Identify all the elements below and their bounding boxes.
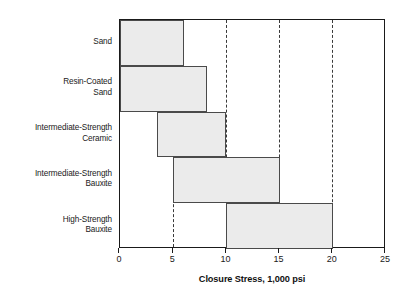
bar-high-strength-bauxite xyxy=(226,203,332,249)
x-tick-mark-0 xyxy=(118,248,119,253)
x-tick-label-0: 0 xyxy=(99,254,139,264)
x-tick-label-15: 15 xyxy=(259,254,299,264)
x-tick-label-20: 20 xyxy=(312,254,352,264)
bar-intermediate-strength-bauxite xyxy=(173,157,279,203)
category-label-intermediate-strength-ceramic: Intermediate-Strength Ceramic xyxy=(0,123,112,144)
category-label-resin-coated-sand: Resin-Coated Sand xyxy=(0,77,112,98)
category-label-intermediate-strength-bauxite: Intermediate-Strength Bauxite xyxy=(0,169,112,190)
category-label-sand: Sand xyxy=(0,37,112,48)
bar-intermediate-strength-ceramic xyxy=(157,112,226,158)
x-tick-label-10: 10 xyxy=(205,254,245,264)
category-label-high-strength-bauxite: High-Strength Bauxite xyxy=(0,215,112,236)
x-tick-mark-5 xyxy=(172,248,173,253)
x-tick-label-5: 5 xyxy=(152,254,192,264)
x-tick-mark-25 xyxy=(384,248,385,253)
x-tick-label-25: 25 xyxy=(365,254,405,264)
x-tick-mark-15 xyxy=(278,248,279,253)
x-axis-title: Closure Stress, 1,000 psi xyxy=(119,274,385,284)
plot-area xyxy=(119,19,385,248)
x-tick-mark-10 xyxy=(225,248,226,253)
x-tick-mark-20 xyxy=(331,248,332,253)
bar-resin-coated-sand xyxy=(120,66,207,112)
bar-sand xyxy=(120,20,184,66)
closure-stress-range-chart: Sand Resin-Coated Sand Intermediate-Stre… xyxy=(0,0,408,296)
